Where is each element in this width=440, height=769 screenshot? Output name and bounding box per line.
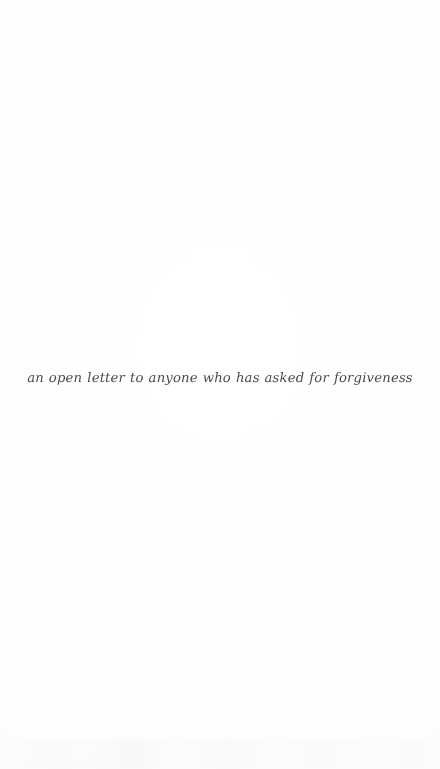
scan-speck [8, 742, 9, 743]
scan-speck [292, 268, 294, 270]
scan-speck [219, 277, 220, 278]
caption-line: an open letter to anyone who has asked f… [0, 367, 440, 387]
caption-text: an open letter to anyone who has asked f… [27, 371, 413, 387]
scan-speck [56, 470, 57, 471]
page-bottom-bleed-through [0, 739, 440, 769]
book-page: an open letter to anyone who has asked f… [0, 0, 440, 769]
